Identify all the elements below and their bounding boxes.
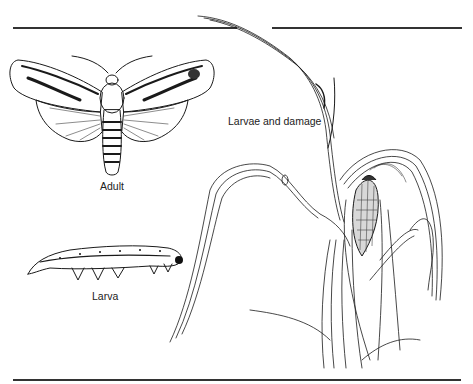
corn-plant-damage-icon [0,0,473,384]
larvae-and-damage-label: Larvae and damage [228,115,321,127]
